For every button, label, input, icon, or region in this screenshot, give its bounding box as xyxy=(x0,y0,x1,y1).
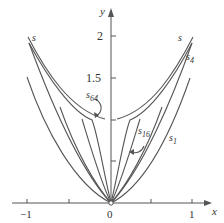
curve-inner-right xyxy=(111,107,162,203)
curve-inner-left xyxy=(60,107,111,203)
label-s1: s1 xyxy=(169,132,177,146)
x-tick-label-1: 1 xyxy=(189,208,195,220)
curve-s1-right xyxy=(111,78,190,203)
label-s64: s64 xyxy=(86,89,98,103)
label-s4: s4 xyxy=(186,51,194,65)
y-tick-label-2: 2 xyxy=(97,29,103,43)
curve-s16-left xyxy=(82,119,111,203)
curve-s-right xyxy=(117,37,193,119)
label-s16: s16 xyxy=(138,125,150,139)
curve-s4-left xyxy=(29,43,111,203)
curve-s1-left xyxy=(27,77,111,203)
x-axis-arrow-icon xyxy=(204,200,212,206)
s16-pointer-arrowhead-icon xyxy=(129,149,134,155)
label-s-right: s xyxy=(178,32,182,43)
curve-s64-left xyxy=(29,43,111,203)
axes xyxy=(12,8,212,206)
label-s-left: s xyxy=(32,32,36,43)
origin-label: 0 xyxy=(107,208,113,220)
y-axis-arrow-icon xyxy=(108,8,114,17)
convergence-diagram: y x 2 1.5 0 −1 1 s s s4 s64 s16 s1 xyxy=(0,0,224,223)
origin-marker xyxy=(109,201,113,205)
curves xyxy=(27,37,193,203)
curve-s4-right xyxy=(111,43,192,203)
curve-s64-right xyxy=(111,43,192,203)
x-tick-label-neg1: −1 xyxy=(20,208,32,220)
x-axis-label: x xyxy=(211,205,217,217)
y-tick-label-1.5: 1.5 xyxy=(86,71,101,85)
y-axis-label: y xyxy=(99,5,105,17)
labels: y x 2 1.5 0 −1 1 s s s4 s64 s16 s1 xyxy=(20,5,217,220)
